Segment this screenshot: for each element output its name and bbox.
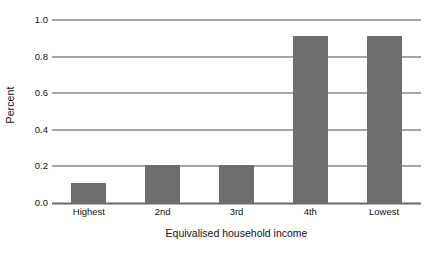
y-axis-tick-label: 0.6 (24, 88, 48, 98)
x-axis-tick-label: 4th (304, 206, 317, 218)
x-axis-tick-labels: Highest2nd3rd4thLowest (52, 206, 421, 222)
x-axis-title: Equivalised household income (52, 227, 421, 239)
bar (293, 36, 328, 203)
y-axis-title: Percent (0, 0, 20, 210)
gridline (52, 20, 421, 21)
x-axis-tick-label: 3rd (230, 206, 244, 218)
bar (145, 165, 180, 203)
bar-chart-figure: Percent 0.00.20.40.60.81.0 Highest2nd3rd… (0, 0, 436, 254)
y-axis-tick-label: 0.8 (24, 52, 48, 62)
bar (71, 183, 106, 203)
y-axis-tick-label: 0.4 (24, 125, 48, 135)
y-axis-tick-label: 0.0 (24, 198, 48, 208)
x-axis-tick-label: Lowest (369, 206, 399, 218)
x-axis-tick-label: Highest (73, 206, 105, 218)
plot-area (52, 20, 421, 203)
y-axis-tick-labels: 0.00.20.40.60.81.0 (20, 0, 48, 254)
y-axis-tick-label: 0.2 (24, 162, 48, 172)
bar (219, 165, 254, 203)
bar (367, 36, 402, 203)
y-axis-title-text: Percent (4, 87, 16, 124)
x-axis-tick-label: 2nd (155, 206, 171, 218)
y-axis-tick-label: 1.0 (24, 15, 48, 25)
